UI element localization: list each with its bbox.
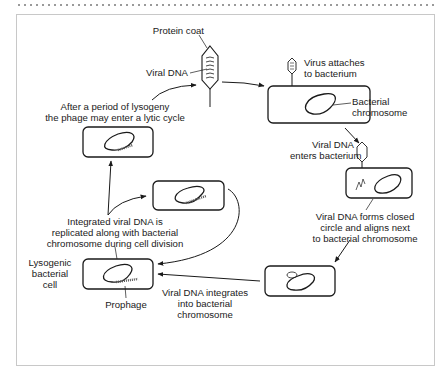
arrow-integrate [158,274,260,281]
arrow-lytic-to-phage [152,85,196,100]
label-viral-dna-enters: Viral DNA enters bacterium [290,139,354,161]
label-viral-dna: Viral DNA [130,67,188,78]
label-integrated-replicated: Integrated viral DNA is replicated along… [40,216,190,249]
label-viral-dna-integrates: Viral DNA integrates into bacterial chro… [155,287,255,320]
arrow-to-divided-cell [108,196,146,215]
label-bacterial-chromosome: Bacterial chromosome [352,96,407,118]
leader-line-protein-coat [199,35,207,48]
phage-icon [202,46,218,107]
dividing-bacterium [153,181,224,210]
label-virus-attaches: Virus attaches to bacterium [304,57,365,79]
bacterium-prophage [83,127,153,157]
label-lytic-cycle: After a period of lysogeny the phage may… [40,101,190,123]
label-prophage: Prophage [96,299,156,310]
label-protein-coat: Protein coat [150,25,204,36]
label-forms-closed-circle: Viral DNA forms closed circle and aligns… [300,211,430,244]
leader-line-viral-dna [190,69,207,73]
label-lysogenic-bacterial-cell: Lysogenic bacterial cell [22,257,78,290]
arrow-phage-to-bacterium [222,82,264,86]
lysogenic-bacterium [83,259,153,298]
arrow-up-to-lytic [108,161,111,215]
lysogenic-cycle-diagram [0,0,446,377]
bacterium-dna-aligned [265,266,335,296]
